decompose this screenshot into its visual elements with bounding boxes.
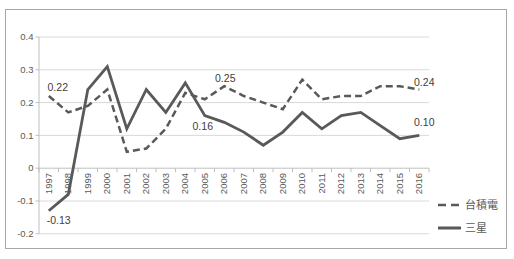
x-tick-label: 2003 <box>160 173 171 194</box>
x-tick-label: 2002 <box>140 173 151 194</box>
x-tick-label: 2012 <box>335 173 346 194</box>
y-tick-label: 0.2 <box>20 97 33 108</box>
legend-label: 三星 <box>465 222 487 234</box>
x-tick-label: 2004 <box>179 173 190 194</box>
line-chart: 0.40.30.20.10-0.1-0.21997199819992000200… <box>0 0 514 259</box>
x-tick-label: 2006 <box>218 173 229 194</box>
data-label: 0.22 <box>48 81 69 93</box>
y-tick-label: -0.1 <box>17 195 33 206</box>
x-tick-label: 1999 <box>82 173 93 194</box>
y-tick-label: 0.1 <box>20 130 33 141</box>
y-tick-label: -0.2 <box>17 228 33 239</box>
x-tick-label: 1997 <box>43 173 54 194</box>
x-tick-label: 2005 <box>199 173 210 194</box>
x-tick-label: 2013 <box>355 173 366 194</box>
x-tick-label: 2015 <box>394 173 405 194</box>
x-tick-label: 2009 <box>277 173 288 194</box>
x-tick-label: 2007 <box>238 173 249 194</box>
y-tick-label: 0.4 <box>20 31 33 42</box>
data-label: 0.25 <box>215 72 236 84</box>
x-tick-label: 2016 <box>413 173 424 194</box>
y-tick-label: 0 <box>28 162 33 173</box>
x-tick-label: 2000 <box>101 173 112 194</box>
y-tick-label: 0.3 <box>20 64 33 75</box>
x-tick-label: 2001 <box>121 173 132 194</box>
x-tick-label: 2010 <box>296 173 307 194</box>
data-label: -0.13 <box>47 214 71 226</box>
x-tick-label: 2008 <box>257 173 268 194</box>
data-label: 0.10 <box>414 116 435 128</box>
x-tick-label: 2014 <box>374 173 385 194</box>
data-label: 0.16 <box>193 120 214 132</box>
legend-label: 台積電 <box>465 198 498 211</box>
data-label: 0.24 <box>414 76 435 88</box>
x-tick-label: 2011 <box>316 173 327 193</box>
